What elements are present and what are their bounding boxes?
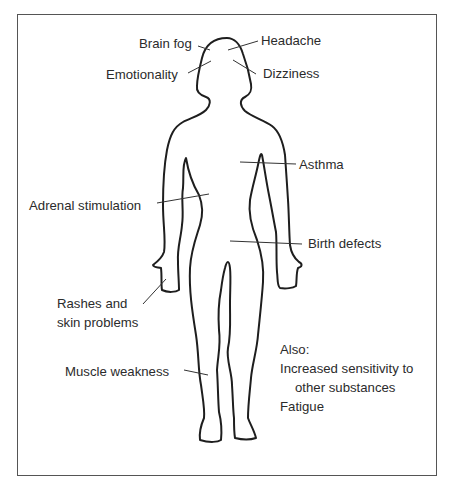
also-item-fatigue: Fatigue xyxy=(280,397,413,416)
leader-dizziness xyxy=(233,60,256,74)
label-birth-defects: Birth defects xyxy=(308,236,381,252)
label-adrenal-stimulation: Adrenal stimulation xyxy=(29,198,141,214)
also-section: Also: Increased sensitivity to other sub… xyxy=(280,340,413,416)
label-brain-fog: Brain fog xyxy=(139,36,192,52)
label-rashes-line1: Rashes and xyxy=(57,296,127,312)
also-item-sensitivity-line2: other substances xyxy=(280,378,413,397)
leader-lines xyxy=(143,41,302,375)
label-muscle-weakness: Muscle weakness xyxy=(65,364,169,380)
body-outline-figure xyxy=(0,0,452,492)
also-item-sensitivity-line1: Increased sensitivity to xyxy=(280,359,413,378)
label-rashes-line2: skin problems xyxy=(57,315,138,331)
label-headache: Headache xyxy=(261,33,321,49)
leader-rashes xyxy=(143,279,166,304)
leader-muscle-weakness xyxy=(184,370,208,375)
label-dizziness: Dizziness xyxy=(263,66,319,82)
label-emotionality: Emotionality xyxy=(106,67,178,83)
leader-headache xyxy=(228,41,258,50)
leader-birth-defects xyxy=(230,241,302,244)
leader-asthma xyxy=(240,162,296,164)
label-asthma: Asthma xyxy=(299,157,344,173)
also-heading: Also: xyxy=(280,340,413,359)
